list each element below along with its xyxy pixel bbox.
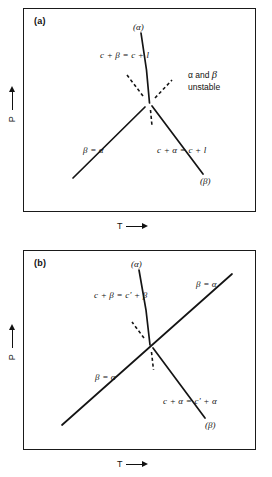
dashed-extension-alpha-b — [152, 352, 154, 370]
curve-beta-b — [153, 348, 205, 418]
panel-b-curves — [0, 0, 272, 477]
panel-b-x-axis-label: T — [117, 459, 123, 469]
label-alpha-end-b: (α) — [131, 259, 142, 269]
panel-b-x-axis: T — [117, 459, 148, 469]
label-reaction-upper-b: c + β = c' + β — [94, 290, 147, 300]
curve-alpha-b — [139, 270, 150, 345]
arrow-right-icon — [126, 461, 148, 468]
arrow-up-icon — [8, 324, 17, 348]
panel-b-y-axis-label: P — [7, 354, 17, 360]
label-reaction-upper-right-b: β = α — [196, 279, 217, 289]
phase-diagram-figure: (a) (α) c + β = c + l c + α = c + l (β) … — [0, 0, 272, 477]
label-beta-end-b: (β) — [205, 420, 215, 430]
label-reaction-lower-left-b: β = α — [95, 372, 116, 382]
dashed-extension-beta-b — [132, 322, 144, 338]
panel-b-y-axis: P — [4, 324, 20, 362]
label-reaction-lower-right-b: c + α = c' + α — [163, 396, 217, 406]
